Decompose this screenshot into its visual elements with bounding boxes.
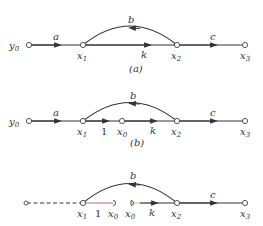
node-x3 xyxy=(242,118,247,123)
node-label-x3: x3 xyxy=(240,50,251,63)
gain-label-c: c xyxy=(210,107,216,118)
diagram-c: x1 1 x0 x0 k x2 x3 b c xyxy=(24,170,251,221)
caption-b: (b) xyxy=(130,137,144,148)
edge-x2-x1-feedback xyxy=(83,26,177,45)
node-x0-sink xyxy=(113,201,116,206)
node-label-x1: x1 xyxy=(77,208,87,221)
node-y0 xyxy=(26,42,31,47)
node-label-x1: x1 xyxy=(77,126,87,139)
arrow-icon xyxy=(132,28,140,29)
gain-label-a: a xyxy=(53,107,59,118)
node-x1 xyxy=(80,118,85,123)
node-x1 xyxy=(80,42,85,47)
edge-x2-x1-feedback xyxy=(83,103,177,122)
node-input xyxy=(24,201,28,205)
node-x3 xyxy=(242,200,247,205)
gain-label-b: b xyxy=(128,14,134,25)
arrow-icon xyxy=(132,104,140,105)
node-x2 xyxy=(174,200,179,205)
gain-label-1: 1 xyxy=(101,126,107,137)
node-label-x2: x2 xyxy=(171,126,182,139)
node-label-x0: x0 xyxy=(117,126,128,139)
gain-label-1: 1 xyxy=(95,208,101,219)
node-label-x0-source: x0 xyxy=(125,208,136,221)
gain-label-b: b xyxy=(130,90,136,101)
node-x0-source xyxy=(131,201,134,206)
node-label-x3: x3 xyxy=(240,208,251,221)
node-label-x3: x3 xyxy=(240,126,251,139)
gain-label-c: c xyxy=(210,189,216,200)
node-x3 xyxy=(242,42,247,47)
node-label-x2: x2 xyxy=(171,50,182,63)
arrow-icon xyxy=(132,185,140,186)
gain-label-b: b xyxy=(130,170,136,181)
node-x2 xyxy=(174,118,179,123)
node-label-x2: x2 xyxy=(171,208,182,221)
node-x1 xyxy=(80,200,85,205)
node-label-x0-sink: x0 xyxy=(108,208,119,221)
edge-x2-x1-feedback xyxy=(83,184,177,204)
gain-label-k: k xyxy=(150,125,156,136)
gain-label-c: c xyxy=(210,31,216,42)
node-y0 xyxy=(26,118,31,123)
gain-label-k: k xyxy=(141,49,147,60)
node-label-y0: y0 xyxy=(8,116,20,129)
diagram-b: y0 x1 x0 x2 x3 a 1 k b c (b) xyxy=(8,90,251,148)
node-label-y0: y0 xyxy=(8,40,20,53)
node-label-x1: x1 xyxy=(77,50,87,63)
diagram-a: y0 x1 x2 x3 a k b c (a) xyxy=(8,14,251,74)
gain-label-a: a xyxy=(53,31,59,42)
node-x2 xyxy=(174,42,179,47)
signal-flow-graphs: y0 x1 x2 x3 a k b c (a) y0 x1 x0 x2 x3 a… xyxy=(0,0,263,226)
node-x0 xyxy=(119,118,124,123)
gain-label-k: k xyxy=(149,207,155,218)
caption-a: (a) xyxy=(129,63,143,74)
